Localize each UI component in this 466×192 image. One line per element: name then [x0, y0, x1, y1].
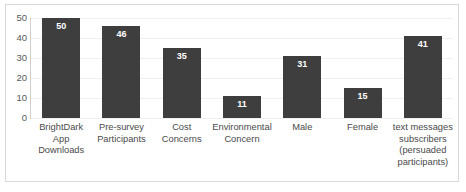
y-axis-tick-label: 0: [6, 113, 27, 123]
bar-value-label: 31: [283, 59, 321, 69]
x-axis-category-label: Environmental Concern: [212, 122, 272, 145]
bar-slot: 35: [163, 18, 201, 118]
plot-area: 50463511311541: [31, 18, 453, 118]
y-axis-tick-label: 20: [6, 73, 27, 83]
bar-slot: 31: [283, 18, 321, 118]
bar[interactable]: 31: [283, 56, 321, 118]
bar-slot: 15: [344, 18, 382, 118]
x-axis-category-label: text messages subscribers (persuaded par…: [393, 122, 453, 168]
bar-value-label: 41: [404, 39, 442, 49]
bar[interactable]: 50: [42, 18, 80, 118]
bar-chart-figure: 01020304050 50463511311541 BrightDark Ap…: [0, 0, 466, 192]
x-axis-category-label: BrightDark App Downloads: [31, 122, 91, 157]
x-axis-category-label: Cost Concerns: [152, 122, 212, 145]
bar-slot: 50: [42, 18, 80, 118]
bar-value-label: 15: [344, 91, 382, 101]
y-axis-tick-label: 30: [6, 53, 27, 63]
bar[interactable]: 46: [102, 26, 140, 118]
bar-value-label: 46: [102, 29, 140, 39]
x-axis-category-label: Female: [332, 122, 392, 134]
gridline: [31, 118, 453, 119]
y-axis-tick-label: 50: [6, 13, 27, 23]
x-axis-category-label: Male: [272, 122, 332, 134]
bar-value-label: 50: [42, 21, 80, 31]
bar[interactable]: 11: [223, 96, 261, 118]
bar-slot: 46: [102, 18, 140, 118]
y-axis-tick-label: 10: [6, 93, 27, 103]
bar-slot: 41: [404, 18, 442, 118]
y-axis-tick-label: 40: [6, 33, 27, 43]
bar[interactable]: 35: [163, 48, 201, 118]
bar[interactable]: 41: [404, 36, 442, 118]
bar-value-label: 35: [163, 51, 201, 61]
bar[interactable]: 15: [344, 88, 382, 118]
bar-value-label: 11: [223, 99, 261, 109]
x-axis-category-label: Pre-survey Participants: [91, 122, 151, 145]
bar-slot: 11: [223, 18, 261, 118]
